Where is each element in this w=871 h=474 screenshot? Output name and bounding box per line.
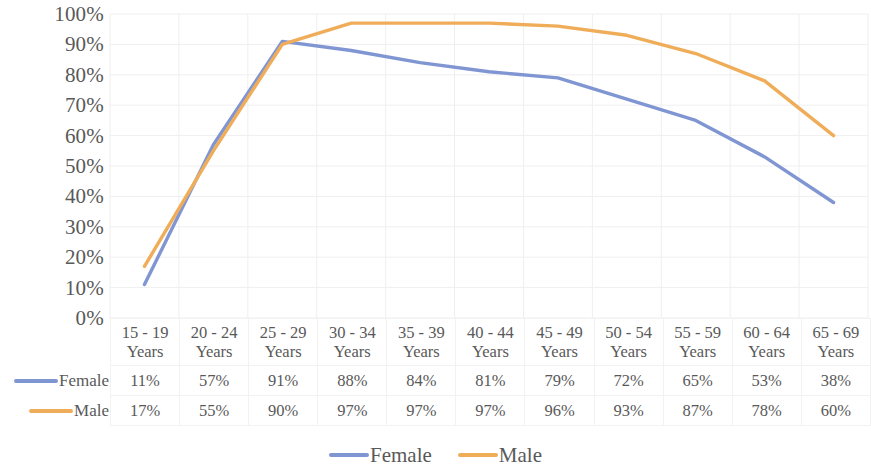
y-axis-tick: 100%	[0, 4, 104, 25]
data-value-cell: 78%	[732, 396, 801, 426]
y-axis-tick: 20%	[0, 247, 104, 268]
series-name: Male	[73, 401, 109, 420]
data-value-cell: 38%	[801, 366, 870, 396]
table-corner-cell	[0, 319, 111, 366]
category-header-cell: 60 - 64 Years	[732, 319, 801, 366]
y-axis-tick: 50%	[0, 156, 104, 177]
series-color-swatch-icon	[29, 409, 73, 413]
data-value-cell: 93%	[594, 396, 663, 426]
y-axis-tick: 40%	[0, 186, 104, 207]
y-axis-tick: 90%	[0, 34, 104, 55]
category-label: 40 - 44 Years	[456, 323, 524, 361]
category-label: 15 - 19 Years	[111, 323, 179, 361]
gridlines	[110, 14, 868, 318]
y-axis-tick: 70%	[0, 95, 104, 116]
category-header-cell: 20 - 24 Years	[180, 319, 249, 366]
data-value-cell: 55%	[180, 396, 249, 426]
data-table: 15 - 19 Years20 - 24 Years25 - 29 Years3…	[0, 318, 871, 426]
y-axis: 0%10%20%30%40%50%60%70%80%90%100%	[0, 0, 104, 320]
data-value-cell: 81%	[456, 366, 525, 396]
series-row-header: Male	[0, 396, 111, 426]
category-label: 65 - 69 Years	[802, 323, 870, 361]
series-row-header: Female	[0, 366, 111, 396]
category-label: 50 - 54 Years	[595, 323, 663, 361]
legend-label: Male	[499, 444, 542, 467]
data-value-cell: 17%	[111, 396, 180, 426]
category-label: 25 - 29 Years	[249, 323, 317, 361]
category-header-cell: 35 - 39 Years	[387, 319, 456, 366]
data-value-cell: 90%	[249, 396, 318, 426]
data-value-cell: 96%	[525, 396, 594, 426]
line-chart: 0%10%20%30%40%50%60%70%80%90%100% 15 - 1…	[0, 0, 871, 474]
legend-item-female[interactable]: Female	[329, 444, 432, 467]
data-value-cell: 53%	[732, 366, 801, 396]
category-label: 30 - 34 Years	[318, 323, 386, 361]
y-axis-tick: 80%	[0, 64, 104, 85]
category-label: 35 - 39 Years	[387, 323, 455, 361]
category-header-cell: 30 - 34 Years	[318, 319, 387, 366]
category-label: 60 - 64 Years	[733, 323, 801, 361]
series-color-swatch-icon	[14, 379, 58, 383]
legend-item-male[interactable]: Male	[458, 444, 542, 467]
chart-legend: FemaleMale	[0, 436, 871, 474]
data-value-cell: 79%	[525, 366, 594, 396]
data-value-cell: 97%	[318, 396, 387, 426]
data-value-cell: 72%	[594, 366, 663, 396]
legend-color-swatch-icon	[458, 453, 498, 457]
y-axis-tick: 10%	[0, 277, 104, 298]
data-value-cell: 88%	[318, 366, 387, 396]
data-value-cell: 60%	[801, 396, 870, 426]
series-name: Female	[58, 371, 109, 390]
table-header-row: 15 - 19 Years20 - 24 Years25 - 29 Years3…	[0, 319, 871, 366]
category-header-cell: 50 - 54 Years	[594, 319, 663, 366]
category-header-cell: 15 - 19 Years	[111, 319, 180, 366]
data-value-cell: 65%	[663, 366, 732, 396]
plot-area	[110, 14, 868, 318]
data-value-cell: 87%	[663, 396, 732, 426]
data-value-cell: 84%	[387, 366, 456, 396]
category-label: 55 - 59 Years	[664, 323, 732, 361]
category-label: 20 - 24 Years	[180, 323, 248, 361]
data-value-cell: 97%	[387, 396, 456, 426]
data-value-cell: 57%	[180, 366, 249, 396]
y-axis-tick: 60%	[0, 125, 104, 146]
category-header-cell: 45 - 49 Years	[525, 319, 594, 366]
category-header-cell: 55 - 59 Years	[663, 319, 732, 366]
category-label: 45 - 49 Years	[525, 323, 593, 361]
table-row: Male17%55%90%97%97%97%96%93%87%78%60%	[0, 396, 871, 426]
table-row: Female11%57%91%88%84%81%79%72%65%53%38%	[0, 366, 871, 396]
category-header-cell: 25 - 29 Years	[249, 319, 318, 366]
data-value-cell: 97%	[456, 396, 525, 426]
category-header-cell: 40 - 44 Years	[456, 319, 525, 366]
data-value-cell: 11%	[111, 366, 180, 396]
plot-svg	[110, 14, 868, 318]
category-header-cell: 65 - 69 Years	[801, 319, 870, 366]
legend-color-swatch-icon	[329, 453, 369, 457]
legend-label: Female	[370, 444, 432, 467]
data-value-cell: 91%	[249, 366, 318, 396]
y-axis-tick: 30%	[0, 216, 104, 237]
